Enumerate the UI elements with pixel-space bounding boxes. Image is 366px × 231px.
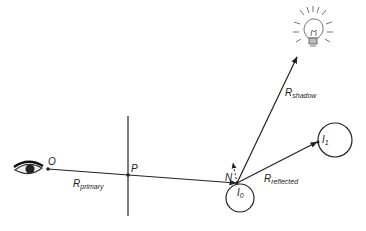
shadow-ray [237, 57, 297, 183]
normal-label: N [225, 172, 233, 183]
primary-label: Rprimary [73, 178, 104, 191]
reflected-ray [237, 142, 317, 183]
ray-tracing-diagram: O P N Rprimary Rshadow Rreflected I0 I1 [0, 0, 366, 231]
light-bulb-icon [293, 6, 333, 46]
eye-icon [14, 162, 43, 174]
hit-point-i1 [316, 140, 319, 143]
pixel-point [126, 173, 130, 177]
pixel-label: P [131, 163, 138, 174]
origin-point [46, 167, 50, 171]
shadow-label: Rshadow [285, 87, 317, 99]
origin-label: O [48, 156, 56, 167]
reflected-label: Rreflected [264, 173, 299, 185]
i0-label: I0 [237, 187, 244, 199]
i1-label: I1 [322, 134, 329, 146]
normal-vector [233, 163, 237, 183]
